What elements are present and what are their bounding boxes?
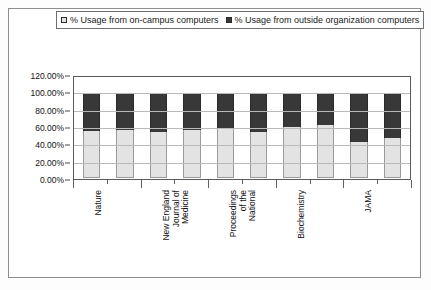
bar-segment-on-campus[interactable] [350,142,367,178]
bar-segment-on-campus[interactable] [83,131,100,178]
x-axis-category-label: Biochemistry [297,190,307,274]
bar-segment-on-campus[interactable] [250,132,267,178]
y-axis: 120.00%100.00%80.00%60.00%40.00%20.00%0.… [10,76,70,180]
bar-segment-outside[interactable] [350,93,367,142]
gridline [74,163,410,164]
x-axis-ticks [73,180,411,189]
x-axis-category-label: Nature [94,190,104,274]
y-axis-label: 60.00% [35,123,64,133]
legend-swatch-light-icon [61,17,67,23]
bar-segment-outside[interactable] [317,93,334,125]
plot-area [73,76,411,180]
x-axis-minor-tick [242,180,243,184]
bar-segment-on-campus[interactable] [116,130,133,178]
bar-segment-outside[interactable] [150,93,167,132]
y-axis-label: 40.00% [35,140,64,150]
y-axis-tick [65,162,70,163]
x-axis-category-label: JAMA [364,190,374,274]
legend-entry-on-campus: % Usage from on-campus computers [61,16,219,25]
x-axis-minor-tick [377,180,378,184]
y-axis-tick [65,76,70,77]
x-axis-minor-tick [174,180,175,184]
bar-segment-on-campus[interactable] [317,125,334,178]
bar-segment-on-campus[interactable] [183,130,200,178]
x-axis-major-tick [343,180,344,188]
y-axis-tick [65,180,70,181]
bar-segment-on-campus[interactable] [150,132,167,178]
plot-area-wrapper [73,76,411,180]
x-axis-labels: NatureNew England Journal of MedicinePro… [73,190,411,274]
x-axis-minor-tick [107,180,108,184]
legend-label-on-campus: % Usage from on-campus computers [70,16,219,25]
x-axis-minor-tick [310,180,311,184]
x-axis-major-tick [141,180,142,188]
x-axis-category-label: Proceedings of the National [229,190,258,274]
bar-segment-on-campus[interactable] [283,127,300,178]
x-axis-major-tick [276,180,277,188]
x-axis-major-tick [411,180,412,188]
bar-segment-outside[interactable] [83,93,100,131]
legend-entry-outside: % Usage from outside organization comput… [226,16,420,25]
y-axis-tick [65,128,70,129]
legend-swatch-dark-icon [226,17,232,23]
chart-screenshot: % Usage from on-campus computers % Usage… [0,0,431,290]
bar-segment-outside[interactable] [384,93,401,138]
y-axis-label: 100.00% [30,88,64,98]
x-axis-category-label: New England Journal of Medicine [162,190,191,274]
y-axis-tick [65,110,70,111]
y-axis-label: 80.00% [35,106,64,116]
gridline [74,93,410,94]
gridline [74,111,410,112]
bar-segment-outside[interactable] [250,93,267,132]
y-axis-label: 120.00% [30,71,64,81]
y-axis-label: 0.00% [40,175,64,185]
bar-segment-outside[interactable] [116,93,133,130]
y-axis-tick [65,93,70,94]
y-axis-label: 20.00% [35,158,64,168]
gridline [74,128,410,129]
x-axis-major-tick [208,180,209,188]
x-axis-major-tick [73,180,74,188]
gridline [74,145,410,146]
chart-legend: % Usage from on-campus computers % Usage… [56,11,424,29]
y-axis-tick [65,145,70,146]
bar-segment-on-campus[interactable] [384,138,401,178]
bar-segment-on-campus[interactable] [217,129,234,178]
legend-label-outside: % Usage from outside organization comput… [235,16,420,25]
